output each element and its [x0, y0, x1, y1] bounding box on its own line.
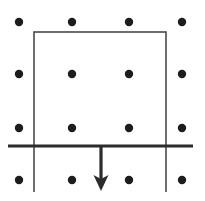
lattice-dot	[15, 18, 23, 26]
lattice-dot	[125, 176, 133, 184]
lattice-dot	[125, 70, 133, 78]
lattice-dot	[178, 18, 186, 26]
lattice-dot	[68, 176, 76, 184]
lattice-dot	[178, 176, 186, 184]
lattice-dot	[125, 18, 133, 26]
lattice-dot	[15, 70, 23, 78]
lattice-dot	[68, 70, 76, 78]
lattice-dot	[125, 124, 133, 132]
figure-canvas	[0, 0, 205, 201]
geometry-figure	[0, 0, 205, 201]
lattice-dot	[178, 124, 186, 132]
lattice-dot	[68, 18, 76, 26]
lattice-dot	[15, 176, 23, 184]
lattice-dot	[178, 70, 186, 78]
lattice-dot	[68, 124, 76, 132]
lattice-dot	[15, 124, 23, 132]
